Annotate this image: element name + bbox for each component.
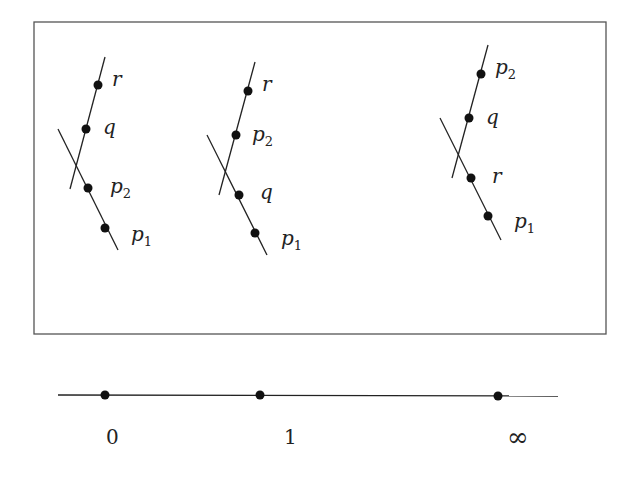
upper-line <box>452 45 488 178</box>
point-p2 <box>232 131 241 140</box>
point-q <box>235 191 244 200</box>
label-p2: p2 <box>495 55 516 82</box>
label-r: r <box>492 164 503 188</box>
base-label-0: 0 <box>106 425 119 449</box>
label-q: q <box>103 115 116 139</box>
base-line <box>58 395 558 396</box>
configuration-1: r p2 q p1 <box>207 62 302 255</box>
base-label-1: 1 <box>284 425 297 449</box>
upper-line <box>70 57 105 189</box>
base-label-infinity: ∞ <box>507 422 529 452</box>
label-p1: p1 <box>281 226 302 253</box>
label-p1: p1 <box>131 222 152 249</box>
configuration-0: r q p2 p1 <box>58 57 152 250</box>
label-p1: p1 <box>514 209 535 236</box>
point-q <box>82 125 91 134</box>
base-point-infinity <box>494 392 503 401</box>
configuration-infinity: p2 q r p1 <box>440 45 535 240</box>
label-p2: p2 <box>252 122 273 149</box>
base-line-group: 0 1 ∞ <box>58 391 558 453</box>
point-p2 <box>477 70 486 79</box>
diagram-canvas: r q p2 p1 r p2 q p1 p2 q r p1 0 1 <box>0 0 635 477</box>
base-point-0 <box>101 391 110 400</box>
point-p1 <box>101 224 110 233</box>
point-p2 <box>84 184 93 193</box>
label-r: r <box>262 72 273 96</box>
point-q <box>465 114 474 123</box>
label-q: q <box>260 180 273 204</box>
point-p1 <box>484 212 493 221</box>
label-r: r <box>112 67 123 91</box>
point-p1 <box>251 229 260 238</box>
point-r <box>244 87 253 96</box>
upper-line <box>219 62 255 195</box>
point-r <box>94 81 103 90</box>
label-q: q <box>486 105 499 129</box>
point-r <box>467 174 476 183</box>
base-point-1 <box>256 391 265 400</box>
label-p2: p2 <box>110 174 131 201</box>
